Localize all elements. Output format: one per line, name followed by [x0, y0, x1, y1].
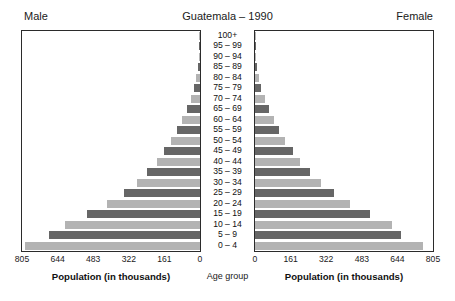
female-bar-row: [255, 188, 433, 198]
male-bar-row: [22, 199, 200, 209]
female-chart-pane: [254, 30, 434, 252]
age-group-tick: 85 – 89: [201, 62, 254, 72]
male-bar-row: [22, 146, 200, 156]
female-x-tick: 0: [235, 254, 275, 264]
male-bar-row: [22, 188, 200, 198]
age-group-tick: 25 – 29: [201, 188, 254, 198]
female-axis-title: Population (in thousands): [244, 271, 444, 285]
male-bar: [65, 221, 200, 229]
male-bar: [171, 137, 200, 145]
male-bar: [199, 53, 200, 61]
male-bar: [199, 32, 200, 40]
female-bar: [255, 189, 334, 197]
female-bar-row: [255, 52, 433, 62]
female-bar-row: [255, 94, 433, 104]
age-group-tick: 65 – 69: [201, 104, 254, 114]
age-group-tick: 40 – 44: [201, 157, 254, 167]
age-group-tick: 90 – 94: [201, 52, 254, 62]
female-x-tick: 644: [377, 254, 417, 264]
female-bar: [255, 158, 300, 166]
age-group-tick: 30 – 34: [201, 178, 254, 188]
female-bar: [255, 95, 265, 103]
female-x-axis: 0161322483644805: [254, 254, 434, 268]
male-bar: [187, 105, 200, 113]
male-bar-row: [22, 83, 200, 93]
female-bar: [255, 126, 279, 134]
male-axis-title: Population (in thousands): [11, 271, 211, 285]
male-bar-row: [22, 167, 200, 177]
female-bar: [255, 242, 423, 250]
female-bar-row: [255, 178, 433, 188]
female-bar: [255, 32, 256, 40]
female-bar-row: [255, 83, 433, 93]
male-bar: [182, 116, 200, 124]
female-x-tick: 483: [342, 254, 382, 264]
female-bar-row: [255, 104, 433, 114]
male-bar-row: [22, 125, 200, 135]
female-bar-row: [255, 115, 433, 125]
male-bar-row: [22, 115, 200, 125]
male-bar-row: [22, 94, 200, 104]
female-bar: [255, 221, 392, 229]
female-bar: [255, 74, 259, 82]
female-bar-row: [255, 209, 433, 219]
female-bar-row: [255, 220, 433, 230]
age-group-tick: 75 – 79: [201, 83, 254, 93]
male-bar: [137, 179, 200, 187]
female-bar-row: [255, 31, 433, 41]
male-x-tick: 483: [73, 254, 113, 264]
female-bar: [255, 84, 261, 92]
male-bar: [147, 168, 200, 176]
chart-header: Male Guatemala – 1990 Female: [0, 10, 455, 26]
male-bar-rows: [22, 31, 200, 251]
age-group-tick: 80 – 84: [201, 73, 254, 83]
age-group-tick: 95 – 99: [201, 41, 254, 51]
female-bar: [255, 116, 274, 124]
male-bar: [107, 200, 200, 208]
age-group-tick: 15 – 19: [201, 209, 254, 219]
male-bar: [124, 189, 200, 197]
male-bar: [157, 158, 200, 166]
male-bar-row: [22, 73, 200, 83]
male-x-tick: 322: [109, 254, 149, 264]
female-x-tick: 805: [413, 254, 453, 264]
male-x-axis: 8056444833221610: [21, 254, 201, 268]
female-bar-row: [255, 241, 433, 251]
age-group-tick: 10 – 14: [201, 220, 254, 230]
female-bar: [255, 179, 321, 187]
age-group-tick: 5 – 9: [201, 230, 254, 240]
male-bar-row: [22, 220, 200, 230]
male-bar-row: [22, 178, 200, 188]
male-bar-row: [22, 62, 200, 72]
male-x-tick: 805: [2, 254, 42, 264]
male-bar: [49, 231, 200, 239]
male-bar-row: [22, 136, 200, 146]
female-x-tick: 161: [271, 254, 311, 264]
male-bar: [87, 210, 200, 218]
male-bar-row: [22, 41, 200, 51]
age-group-tick: 45 – 49: [201, 146, 254, 156]
female-bar-row: [255, 146, 433, 156]
female-bar-row: [255, 167, 433, 177]
female-bar-row: [255, 157, 433, 167]
female-x-tick: 322: [306, 254, 346, 264]
age-group-tick: 0 – 4: [201, 241, 254, 251]
male-bar: [198, 63, 200, 71]
age-group-tick: 20 – 24: [201, 199, 254, 209]
female-bar: [255, 53, 256, 61]
male-bar-row: [22, 104, 200, 114]
age-group-tick: 55 – 59: [201, 125, 254, 135]
female-bar: [255, 200, 350, 208]
page-title: Guatemala – 1990: [0, 10, 455, 22]
male-bar: [196, 74, 200, 82]
age-group-tick: 100+: [201, 31, 254, 41]
female-bar: [255, 210, 370, 218]
male-bar-row: [22, 241, 200, 251]
age-group-tick: 35 – 39: [201, 167, 254, 177]
female-bar-row: [255, 41, 433, 51]
female-bar-row: [255, 136, 433, 146]
female-bar-row: [255, 230, 433, 240]
female-bar: [255, 63, 257, 71]
female-bar: [255, 168, 310, 176]
female-bar: [255, 147, 293, 155]
